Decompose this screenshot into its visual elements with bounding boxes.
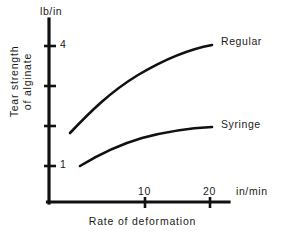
x-tick-label-10: 10 [138, 186, 151, 197]
series-label-regular: Regular [221, 36, 262, 47]
y-tick-label-1: 1 [60, 159, 66, 170]
x-axis-unit-label: in/min [236, 186, 268, 197]
series-label-syringe: Syringe [221, 119, 261, 130]
y-axis-title-line-2: of alginate [21, 22, 32, 142]
x-tick-label-20: 20 [203, 186, 216, 197]
tear-strength-chart: lb/in 4 1 10 20 in/min Regular Syringe R… [0, 0, 285, 232]
y-axis-title: Tear strength of alginate [9, 22, 32, 142]
y-tick-label-4: 4 [60, 39, 66, 50]
y-axis-unit-label: lb/in [40, 6, 62, 17]
curve-regular [70, 45, 212, 133]
x-axis-title: Rate of deformation [0, 216, 285, 227]
curve-syringe [80, 127, 212, 166]
y-axis-title-line-1: Tear strength [9, 22, 20, 142]
